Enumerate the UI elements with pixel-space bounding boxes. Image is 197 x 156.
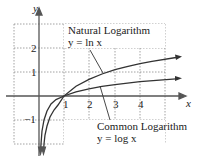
x-tick-3: 3 [113,99,119,110]
common-log-equation: y = log x [97,133,137,144]
y-axis-label: y [33,3,38,14]
common-leader-line [100,86,110,120]
y-tick-1: 1 [31,67,37,78]
x-tick-4: 4 [138,99,144,110]
x-axis-label: x [186,98,191,109]
common-log-title: Common Logarithm [97,121,187,132]
x-tick-2: 2 [87,99,93,110]
natural-log-equation: y = ln x [68,37,102,48]
y-tick-2: 2 [31,43,37,54]
natural-leader-line [90,50,103,73]
natural-log-title: Natural Logarithm [68,25,150,36]
x-tick-1: 1 [63,99,69,110]
y-tick-neg1: −1 [24,114,36,125]
